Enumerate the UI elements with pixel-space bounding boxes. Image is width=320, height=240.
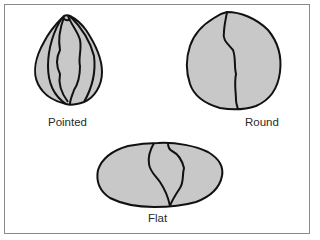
pointed-shape <box>35 15 102 105</box>
label-pointed: Pointed <box>48 116 87 128</box>
label-round: Round <box>245 116 279 128</box>
label-flat: Flat <box>148 212 167 224</box>
round-shape <box>187 12 281 110</box>
flat-shape <box>97 143 222 207</box>
